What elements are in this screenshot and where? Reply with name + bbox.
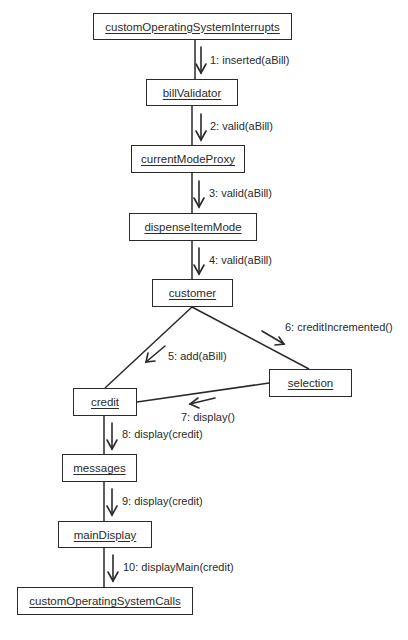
message-label-8: 8: display(credit) [122,428,203,440]
object-dispense-item-mode[interactable]: dispenseItemMode [129,213,257,241]
arrow-icon-msg-7 [190,398,215,408]
arrow-icon-msg-2 [196,114,206,140]
object-selection[interactable]: selection [269,369,352,397]
message-label-5: 5: add(aBill) [168,350,227,362]
message-label-7: 7: display() [181,411,235,423]
link-customer-credit [105,307,192,388]
arrow-icon-msg-9 [107,489,117,515]
object-label: selection [288,377,333,389]
object-label: dispenseItemMode [144,221,241,233]
arrow-icon-msg-8 [107,423,117,449]
object-custom-operating-system-calls[interactable]: customOperatingSystemCalls [17,587,193,615]
object-label: customer [169,287,216,299]
arrow-icon-msg-3 [194,181,204,207]
object-credit[interactable]: credit [73,388,137,416]
arrow-icon-msg-1 [196,47,206,73]
object-label: customOperatingSystemCalls [29,595,180,607]
object-messages[interactable]: messages [62,454,137,482]
message-label-2: 2: valid(aBill) [210,120,273,132]
arrow-icon-msg-5 [146,346,165,362]
arrow-icon-msg-6 [262,331,284,345]
object-main-display[interactable]: mainDisplay [58,521,152,548]
object-label: messages [73,462,125,474]
message-label-1: 1: inserted(aBill) [210,54,289,66]
arrow-icon-msg-10 [108,555,118,581]
object-customer[interactable]: customer [152,279,233,307]
message-label-6: 6: creditIncremented() [285,321,393,333]
message-label-4: 4: valid(aBill) [209,254,272,266]
object-custom-operating-system-interrupts[interactable]: customOperatingSystemInterrupts [93,13,292,40]
arrow-icon-msg-4 [194,248,204,274]
object-label: credit [91,396,119,408]
object-label: customOperatingSystemInterrupts [105,21,280,33]
object-label: currentModeProxy [141,153,235,165]
message-label-9: 9: display(credit) [122,495,203,507]
object-current-mode-proxy[interactable]: currentModeProxy [131,145,245,173]
message-label-3: 3: valid(aBill) [209,187,272,199]
object-label: mainDisplay [74,529,137,541]
collaboration-diagram: customOperatingSystemInterrupts billVali… [0,0,408,640]
link-credit-selection [137,383,269,402]
message-label-10: 10: displayMain(credit) [123,561,234,573]
object-label: billValidator [163,87,222,99]
object-bill-validator[interactable]: billValidator [146,79,238,106]
